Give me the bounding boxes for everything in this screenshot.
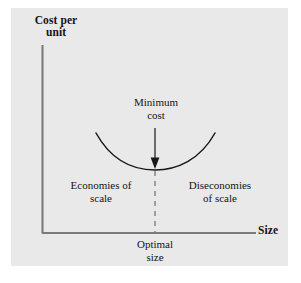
diseconomies-of-scale-label: Diseconomies of scale	[168, 179, 272, 205]
economies-of-scale-diagram: Cost per unit Size Minimum cost Economie…	[0, 0, 301, 283]
minimum-cost-label: Minimum cost	[118, 96, 194, 122]
x-axis-label: Size	[258, 224, 278, 236]
optimal-size-label: Optimal size	[116, 238, 194, 264]
economies-of-scale-label: Economies of scale	[53, 179, 149, 205]
minimum-cost-arrow-head	[151, 158, 160, 170]
y-axis-label: Cost per unit	[19, 14, 93, 39]
